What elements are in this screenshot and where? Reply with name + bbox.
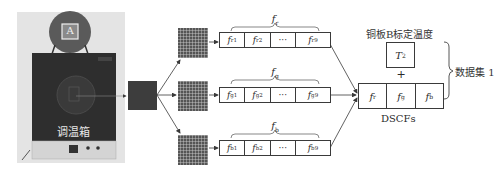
dataset-label: 数据集 1	[455, 64, 495, 79]
dscf-label: DSCFs	[381, 113, 416, 124]
feature-cell: fg9	[296, 88, 330, 102]
dscf-cell: fb	[416, 84, 443, 108]
dataset-brace	[444, 42, 453, 99]
feature-cell: ···	[271, 33, 296, 47]
brace-label-r: fr	[265, 13, 285, 26]
feature-cell: fr2	[245, 33, 270, 47]
grid-icon-r	[178, 28, 208, 58]
dscf-cell: fr	[359, 84, 387, 108]
dscf-cell: fg	[387, 84, 415, 108]
brace-label-g: fg	[265, 66, 285, 79]
feature-cell: ···	[271, 88, 296, 102]
feature-cell: fb1	[220, 141, 245, 155]
feature-cell: fr9	[296, 33, 330, 47]
grid-icon-g	[178, 81, 208, 111]
feature-cell: fg2	[245, 88, 270, 102]
feature-cell: fr1	[220, 33, 245, 47]
plus-sign: +	[395, 68, 407, 81]
brace-label-b: fb	[265, 120, 285, 133]
feature-bar-r: fr1 fr2 ··· fr9	[219, 32, 331, 48]
lid-marker-a: A	[64, 25, 76, 36]
feature-cell: fb2	[245, 141, 270, 155]
dscf-vector: fr fg fb	[358, 83, 444, 109]
chamber-label: 调温箱	[57, 123, 90, 139]
feature-cell: ···	[271, 141, 296, 155]
feature-cell: fb9	[296, 141, 330, 155]
grid-icon-b	[178, 135, 208, 165]
calibration-title: 铜板B标定温度	[366, 26, 433, 41]
feature-bar-g: fg1 fg2 ··· fg9	[219, 87, 331, 103]
temperature-box: T2	[386, 42, 415, 68]
roi-square	[128, 81, 157, 110]
feature-bar-b: fb1 fb2 ··· fb9	[219, 140, 331, 156]
feature-cell: fg1	[220, 88, 245, 102]
